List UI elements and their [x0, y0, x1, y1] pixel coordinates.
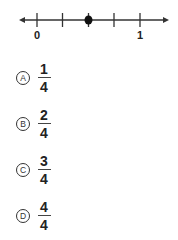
label-one: 1	[137, 29, 143, 41]
option-bubble-a[interactable]: A	[16, 71, 30, 85]
numerator: 3	[40, 154, 48, 168]
fraction-a: 1 4	[37, 62, 51, 94]
numerator: 1	[40, 62, 48, 76]
label-zero: 0	[34, 29, 40, 41]
option-bubble-c[interactable]: C	[16, 163, 30, 177]
left-arrow-icon	[19, 17, 25, 23]
numerator: 2	[40, 108, 48, 122]
answer-option-d[interactable]: D 4 4	[16, 196, 136, 236]
denominator: 4	[40, 172, 48, 186]
fraction-d: 4 4	[37, 200, 51, 232]
fraction-b: 2 4	[37, 108, 51, 140]
number-line-graphic	[0, 0, 178, 50]
answer-option-b[interactable]: B 2 4	[16, 104, 136, 144]
fraction-bar	[38, 123, 51, 124]
denominator: 4	[40, 80, 48, 94]
fraction-c: 3 4	[37, 154, 51, 186]
option-bubble-d[interactable]: D	[16, 209, 30, 223]
right-arrow-icon	[163, 17, 169, 23]
plotted-point	[85, 16, 93, 25]
answer-option-a[interactable]: A 1 4	[16, 58, 136, 98]
fraction-bar	[38, 215, 51, 216]
denominator: 4	[40, 218, 48, 232]
fraction-bar	[38, 77, 51, 78]
answer-option-c[interactable]: C 3 4	[16, 150, 136, 190]
fraction-bar	[38, 169, 51, 170]
option-bubble-b[interactable]: B	[16, 117, 30, 131]
denominator: 4	[40, 126, 48, 140]
numerator: 4	[40, 200, 48, 214]
